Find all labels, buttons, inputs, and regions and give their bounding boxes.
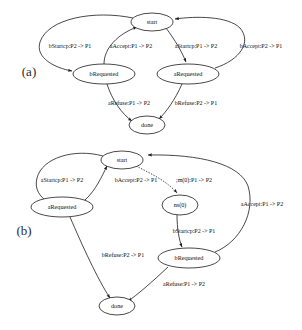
edge-a-aaccept-label: aAccept:P1 -> P2 [110,43,152,49]
node-a-start[interactable]: start [131,13,173,31]
node-a-arequested[interactable]: aRequested [157,64,219,84]
node-b-brequested-label: bRequested [175,254,205,261]
node-b-ns0-label: ns(0) [174,201,187,209]
edge-b-brefuse-label: bRefuse:P2 -> P1 [102,252,144,258]
node-b-done-label: done [111,302,123,309]
edge-b-arequested-to-start [85,166,107,200]
edge-b-baccept-label: bAccept:P2 -> P1 [115,177,158,183]
edge-a-arefuse-label: aRefuse:P1 -> P2 [108,100,150,106]
node-a-done[interactable]: done [129,116,165,134]
figure-container: (a) bStartcp:P2 -> P1 aAccept:P1 -> P2 a… [0,0,302,330]
edge-b-bstartcp-label: bStartcp:P2 -> P1 [173,228,216,234]
node-b-done[interactable]: done [99,297,135,315]
state-diagram-svg: (a) bStartcp:P2 -> P1 aAccept:P1 -> P2 a… [0,0,302,330]
edge-a-baccept-label: bAccept:P2 -> P1 [240,43,283,49]
panel-b-label: (b) [16,223,31,238]
edge-a-bstartcp-label: bStartcp:P2 -> P1 [49,43,92,49]
panel-a-label: (a) [22,64,36,79]
node-a-arequested-label: aRequested [174,70,203,77]
node-b-ns0[interactable]: ns(0) [162,195,198,215]
node-b-brequested[interactable]: bRequested [158,248,220,268]
edge-a-brefuse-label: bRefuse:P2 -> P1 [175,100,217,106]
edge-b-astartcp-label: aStartcp:P1 -> P2 [41,177,83,183]
panel-b: (b) aStartcp:P1 -> P2 bAccept:P2 -> P1 ;… [16,151,283,315]
node-b-arequested-label: aRequested [48,203,77,210]
panel-a: (a) bStartcp:P2 -> P1 aAccept:P1 -> P2 a… [22,13,283,134]
node-a-brequested[interactable]: bRequested [73,64,135,84]
node-a-start-label: start [147,18,158,25]
node-b-start-label: start [117,156,128,163]
edge-b-aaccept-label: aAccept:P1 -> P2 [241,201,283,207]
node-a-done-label: done [141,121,153,128]
node-a-brequested-label: bRequested [90,70,120,77]
node-b-arequested[interactable]: aRequested [31,197,93,217]
edge-a-astartcp-label: aStartcp:P1 -> P2 [175,43,217,49]
edge-b-m0-label: ;m(0):P1 -> P2 [176,177,212,184]
edge-b-arefuse-label: aRefuse:P1 -> P2 [163,281,205,287]
node-b-start[interactable]: start [101,151,143,169]
